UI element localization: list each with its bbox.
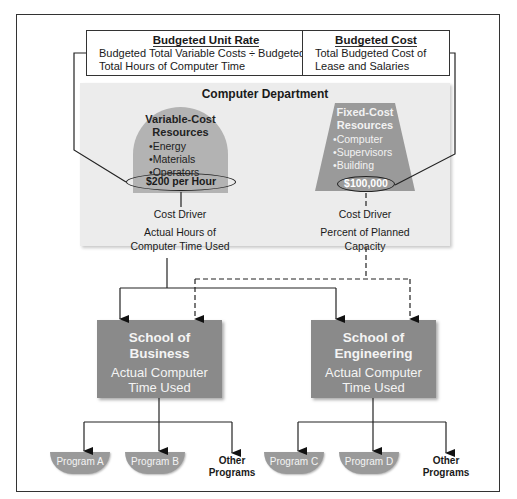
connector-lines — [0, 0, 517, 499]
